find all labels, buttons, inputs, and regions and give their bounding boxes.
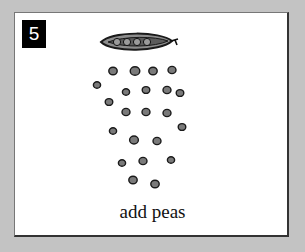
pea-icon	[178, 124, 186, 131]
pea-icon	[149, 67, 157, 75]
pea-icon	[168, 66, 176, 73]
pea-icon	[122, 89, 129, 95]
pea-icon	[118, 160, 125, 166]
pea-icon	[130, 67, 140, 76]
pea-icon	[176, 90, 184, 97]
pea-icon	[142, 108, 150, 115]
pea-icon	[109, 128, 116, 134]
pea-icon	[122, 108, 130, 115]
pea-icon	[151, 180, 159, 188]
pea-icon	[163, 86, 171, 93]
pea-icon	[167, 157, 174, 163]
pea-icon	[105, 99, 113, 106]
pea-pod-icon	[101, 34, 178, 50]
pea-icon	[142, 87, 150, 94]
pea-icon	[109, 67, 117, 75]
step-caption: add peas	[0, 201, 305, 223]
pea-icon	[129, 176, 137, 184]
pea-icon	[130, 136, 139, 144]
pea-icon	[139, 157, 147, 164]
pea-icon	[163, 109, 171, 116]
pea-icon	[153, 137, 161, 144]
pea-icon	[93, 82, 100, 88]
